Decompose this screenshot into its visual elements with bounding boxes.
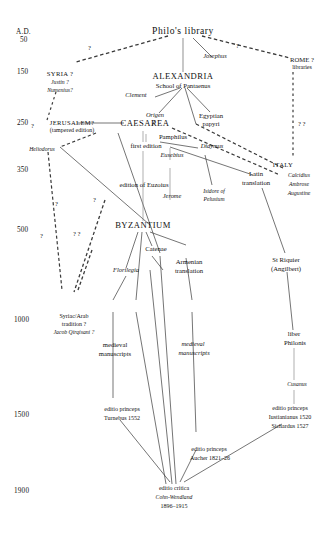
node-didymus[interactable]: Didymus <box>188 143 236 150</box>
node-calcidius[interactable]: Calcidius <box>272 172 326 178</box>
axis-tick-1500: 1500 <box>14 411 29 419</box>
node-rome-libraries: libraries <box>276 64 328 70</box>
node-latin-line1[interactable]: Latin <box>236 170 276 177</box>
node-jacob-qirqisani[interactable]: Jacob Qirqisani ? <box>36 329 112 335</box>
node-st-riquier-line2: (Angilbert) <box>258 265 314 272</box>
node-editio-italy-line3: Sichardus 1527 <box>246 423 333 429</box>
node-editio-italy-line1[interactable]: editio princeps <box>250 405 330 411</box>
node-armenian-line1[interactable]: Armenian <box>164 258 214 265</box>
axis-tick-350: 350 <box>17 166 28 174</box>
question-mark-heliodorus-branch: ? <box>55 200 58 207</box>
node-editio-critica-line3: 1896–1915 <box>138 503 210 509</box>
axis-tick-1000: 1000 <box>14 316 29 324</box>
node-first-edition: first edition <box>119 142 173 149</box>
node-cusanus[interactable]: Cusanus <box>272 381 322 387</box>
node-editio-italy-line2: Iustianianus 1520 <box>246 414 333 420</box>
node-jerome[interactable]: Jerome <box>150 193 194 200</box>
node-jerusalem-tampered-edition: (tampered edition) <box>36 127 108 133</box>
node-editio-turnebus-line2: Turnebus 1552 <box>86 415 158 421</box>
node-pamphilus[interactable]: Pamphilus <box>147 133 199 140</box>
node-editio-critica-line1[interactable]: editio critica <box>140 485 208 491</box>
node-edition-of-euzoius: edition of Euzoius <box>104 181 184 188</box>
question-mark-italy-branch: ? ? <box>298 120 306 127</box>
node-heliodorus[interactable]: Heliodorus <box>16 146 68 152</box>
node-latin-line2: translation <box>230 179 282 186</box>
node-syriac-arab-line1[interactable]: Syriac/Arab <box>42 313 106 319</box>
question-mark-byzantium-left: ? <box>40 232 43 239</box>
node-rome[interactable]: ROME ? <box>276 56 328 63</box>
node-medieval-right-line1[interactable]: medieval <box>166 341 220 348</box>
node-italy[interactable]: ITALY <box>264 161 302 168</box>
node-alexandria[interactable]: ALEXANDRIA <box>138 72 228 81</box>
node-medieval-left-line1[interactable]: medieval <box>88 341 142 348</box>
node-egyptian[interactable]: Egyptian <box>188 112 234 119</box>
node-liber-line2: Philonis <box>268 339 322 346</box>
stemma-diagram: A.D. 50 150 250 350 500 1000 1500 1900 P… <box>0 0 333 534</box>
node-jerusalem[interactable]: JERUSALEM? <box>40 119 104 126</box>
question-mark-syria-branch: ? <box>88 44 91 51</box>
node-florilegia[interactable]: Florilegia <box>100 267 152 274</box>
node-armenian-line2: translation <box>162 267 216 274</box>
node-byzantium[interactable]: BYZANTIUM <box>106 221 180 230</box>
node-eusebius[interactable]: Eusebius <box>148 152 196 159</box>
node-liber-line1[interactable]: liber <box>270 330 318 337</box>
node-augustine[interactable]: Augustine <box>272 190 326 196</box>
node-medieval-left-line2: manuscripts <box>84 350 146 357</box>
axis-tick-500: 500 <box>17 226 28 234</box>
node-school-of-pantaenus: School of Pantaenus <box>134 82 232 89</box>
node-numenius: Numenius? <box>30 87 90 93</box>
axis-tick-250: 250 <box>17 119 28 127</box>
node-st-riquier-line1[interactable]: St Riquier <box>258 256 314 263</box>
node-caesarea[interactable]: CAESAREA <box>110 119 180 128</box>
question-mark-syriac-branch: ? ? <box>73 230 81 237</box>
question-mark-rome-branch: ? <box>236 42 239 49</box>
node-catenae[interactable]: Catenae <box>134 245 178 252</box>
node-papyri: papyri <box>188 120 234 127</box>
node-justin: Justin ? <box>32 79 88 85</box>
question-mark-caesarea-branch: ? <box>93 196 96 203</box>
node-josephus[interactable]: Josephus <box>185 53 245 60</box>
node-editio-aucher-line2: Aucher 1821–26 <box>174 455 246 461</box>
node-editio-aucher-line1[interactable]: editio princeps <box>176 446 242 452</box>
node-clement[interactable]: Clement <box>112 92 160 99</box>
question-mark-jerusalem: ? <box>31 122 34 129</box>
node-editio-turnebus-line1[interactable]: editio princeps <box>88 406 156 412</box>
node-isidore-line2: Pelusium <box>190 196 238 202</box>
node-philo-library[interactable]: Philo's library <box>136 26 230 36</box>
node-editio-critica-line2: Cohn-Wendland <box>134 494 214 500</box>
node-isidore-line1[interactable]: Isidore of <box>190 188 238 194</box>
node-syriac-arab-line2: tradition ? <box>42 321 106 327</box>
node-medieval-right-line2: manuscripts <box>162 350 226 357</box>
axis-tick-1900: 1900 <box>14 487 29 495</box>
axis-tick-50: 50 <box>20 36 28 44</box>
node-syria[interactable]: SYRIA ? <box>32 70 88 77</box>
axis-tick-150: 150 <box>17 68 28 76</box>
